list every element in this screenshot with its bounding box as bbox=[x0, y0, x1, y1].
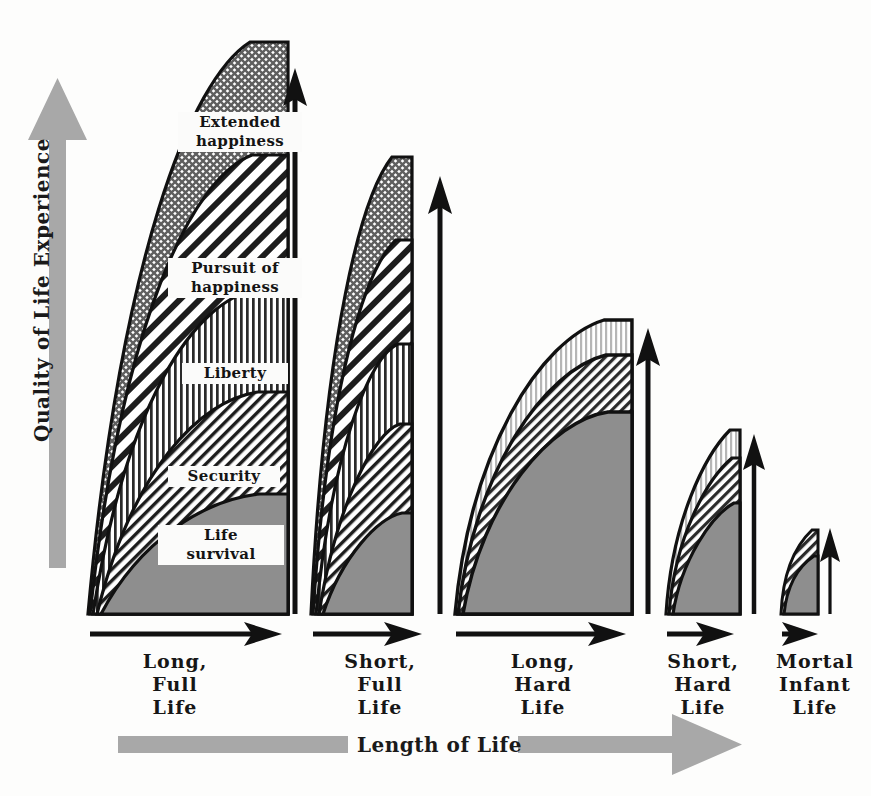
y-axis-label: Quality of Life Experience bbox=[30, 182, 54, 442]
length-arrow-long-hard-life bbox=[456, 622, 626, 646]
length-arrow-short-hard-life bbox=[667, 622, 734, 646]
length-arrow-short-full-life bbox=[313, 622, 422, 646]
segment-label-security: Security bbox=[168, 466, 280, 487]
segment-label-liberty: Liberty bbox=[182, 363, 288, 384]
value-arrow-short-hard-life bbox=[743, 434, 765, 614]
category-label-short-hard-life: Short, Hard Life bbox=[648, 650, 758, 719]
group-short-full-life bbox=[311, 157, 452, 646]
group-mortal-infant-life bbox=[781, 528, 840, 646]
value-arrow-short-full-life bbox=[428, 176, 452, 614]
group-long-hard-life bbox=[455, 320, 660, 646]
category-label-long-full-life: Long, Full Life bbox=[110, 650, 240, 719]
value-arrow-long-hard-life bbox=[636, 328, 660, 614]
length-arrow-mortal-infant-life bbox=[782, 622, 818, 646]
segment-label-extended-happiness: Extended happiness bbox=[178, 112, 302, 152]
segment-label-pursuit-of-happiness: Pursuit of happiness bbox=[168, 258, 302, 298]
length-arrow-long-full-life bbox=[90, 622, 282, 646]
category-label-long-hard-life: Long, Hard Life bbox=[483, 650, 603, 719]
segment-label-life-survival: Life survival bbox=[158, 525, 284, 565]
category-label-short-full-life: Short, Full Life bbox=[320, 650, 440, 719]
diagram-canvas: Quality of Life Experience Length of Lif… bbox=[0, 0, 871, 796]
value-arrow-mortal-infant-life bbox=[820, 528, 840, 614]
group-short-hard-life bbox=[666, 430, 765, 646]
category-label-mortal-infant-life: Mortal Infant Life bbox=[759, 650, 871, 719]
x-axis-label: Length of Life bbox=[357, 733, 522, 757]
